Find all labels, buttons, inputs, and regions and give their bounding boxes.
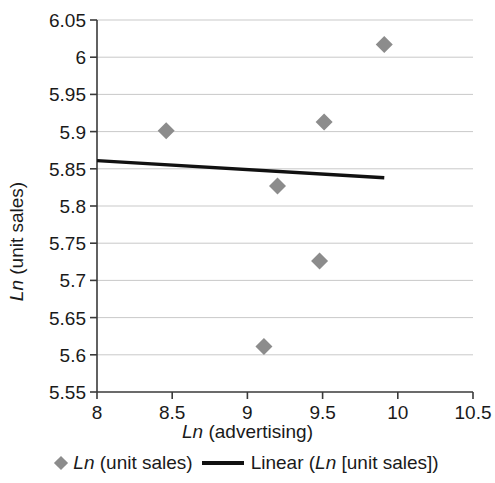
y-tick-label: 5.8	[60, 197, 86, 216]
data-point-diamond	[316, 113, 333, 130]
data-point-diamond	[158, 122, 175, 139]
data-point-diamond	[311, 253, 328, 270]
scatter-chart: 5.555.65.655.75.755.85.855.95.9566.05 88…	[0, 0, 495, 483]
legend-item-scatter: Ln (unit sales)	[56, 452, 192, 474]
data-point-diamond	[376, 36, 393, 53]
y-axis-ticks	[90, 20, 97, 392]
y-tick-label: 6.05	[49, 11, 86, 30]
x-axis-title-rest: (advertising)	[203, 421, 313, 442]
legend-label-trendline: Linear (Ln [unit sales])	[251, 452, 439, 474]
x-axis-ticks	[97, 392, 473, 399]
y-tick-label: 6	[75, 48, 86, 67]
y-axis-title: Ln (unit sales)	[2, 0, 32, 483]
y-tick-label: 5.9	[60, 122, 86, 141]
legend-trend-post: [unit sales])	[336, 452, 438, 473]
y-axis-title-rest: (unit sales)	[6, 182, 27, 280]
y-tick-label: 5.75	[49, 234, 86, 253]
x-tick-label: 9.5	[309, 403, 335, 422]
x-axis-title-italic: Ln	[182, 421, 203, 442]
x-tick-label: 10	[387, 403, 408, 422]
x-tick-label: 8.5	[159, 403, 185, 422]
x-tick-label: 10.5	[455, 403, 492, 422]
x-tick-label: 8	[92, 403, 103, 422]
data-point-diamond	[255, 338, 272, 355]
legend-scatter-italic: Ln	[73, 452, 94, 473]
legend-label-scatter: Ln (unit sales)	[73, 452, 192, 474]
legend-trend-italic: Ln	[315, 452, 336, 473]
y-tick-label: 5.85	[49, 159, 86, 178]
data-point-diamond	[269, 177, 286, 194]
x-tick-label: 9	[242, 403, 253, 422]
chart-legend: Ln (unit sales) Linear (Ln [unit sales])	[0, 452, 495, 474]
legend-trend-pre: Linear (	[251, 452, 315, 473]
y-tick-label: 5.6	[60, 345, 86, 364]
y-tick-label: 5.65	[49, 308, 86, 327]
y-tick-label: 5.95	[49, 85, 86, 104]
y-tick-label: 5.7	[60, 271, 86, 290]
line-marker-icon	[202, 461, 244, 465]
diamond-marker-icon	[54, 456, 68, 470]
y-axis-title-italic: Ln	[6, 280, 27, 301]
legend-scatter-rest: (unit sales)	[94, 452, 192, 473]
y-tick-label: 5.55	[49, 383, 86, 402]
y-axis-title-wrap: Ln (unit sales)	[2, 0, 32, 420]
data-points	[158, 36, 393, 355]
gridlines	[97, 20, 473, 355]
legend-item-trendline: Linear (Ln [unit sales])	[202, 452, 439, 474]
x-axis-title: Ln (advertising)	[0, 422, 495, 441]
